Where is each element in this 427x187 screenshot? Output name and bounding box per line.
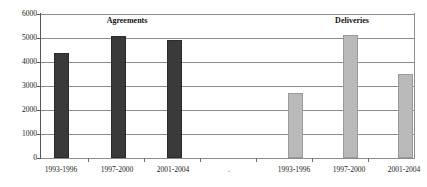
gridline-5000: 5000 [41, 38, 414, 39]
gridline-6000: 6000 [41, 14, 414, 15]
x-tick-mark-6 [368, 158, 369, 162]
gridline-1000: 1000 [41, 134, 414, 135]
bar-agreements-1997-2000 [111, 36, 126, 158]
x-tick-label-agreements-1997-2000: 1997-2000 [101, 166, 134, 174]
x-tick-mark-5 [312, 158, 313, 162]
x-tick-mark-1 [88, 158, 89, 162]
bar-deliveries-1993-1996 [288, 93, 303, 158]
bar-deliveries-2001-2004 [398, 74, 413, 158]
x-tick-label-agreements-1993-1996: 1993-1996 [45, 166, 78, 174]
bar-agreements-1993-1996 [54, 53, 69, 158]
plot-right-border [414, 13, 415, 159]
y-tick-label-6000: 6000 [22, 10, 41, 18]
x-tick-label-agreements-2001-2004: 2001-2004 [157, 166, 190, 174]
x-tick-label-deliveries-2001-2004: 2001-2004 [388, 166, 421, 174]
y-tick-label-4000: 4000 [22, 58, 41, 66]
y-tick-label-2000: 2000 [22, 106, 41, 114]
bar-chart: Agreements Deliveries 6000 5000 4000 300… [0, 0, 427, 187]
y-tick-label-0: 0 [33, 154, 41, 162]
bar-agreements-2001-2004 [167, 40, 182, 158]
x-tick-mark-4 [256, 158, 257, 162]
y-tick-label-3000: 3000 [22, 82, 41, 90]
x-tick-mark-3 [200, 158, 201, 162]
y-tick-label-1000: 1000 [22, 130, 41, 138]
y-tick-label-5000: 5000 [22, 34, 41, 42]
x-tick-mark-2 [144, 158, 145, 162]
gridline-3000: 3000 [41, 86, 414, 87]
x-tick-label-deliveries-1997-2000: 1997-2000 [333, 166, 366, 174]
gridline-2000: 2000 [41, 110, 414, 111]
plot-area: 6000 5000 4000 3000 2000 1000 0 [41, 14, 414, 158]
gridline-4000: 4000 [41, 62, 414, 63]
bar-deliveries-1997-2000 [343, 35, 358, 158]
x-tick-label-deliveries-1993-1996: 1993-1996 [278, 166, 311, 174]
gridline-0: 0 [41, 158, 414, 159]
x-tick-label-separator: . [228, 166, 230, 174]
